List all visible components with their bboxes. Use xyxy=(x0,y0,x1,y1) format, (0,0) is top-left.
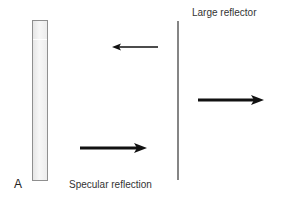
transmitted-beam-arrow-icon xyxy=(198,95,264,105)
specular-reflection-label: Specular reflection xyxy=(69,180,152,190)
incident-beam-arrow-icon xyxy=(80,143,147,153)
arrows-layer xyxy=(0,0,285,200)
panel-letter: A xyxy=(14,178,22,190)
large-reflector-label: Large reflector xyxy=(192,8,256,18)
reflected-echo-arrow-icon xyxy=(112,44,158,51)
